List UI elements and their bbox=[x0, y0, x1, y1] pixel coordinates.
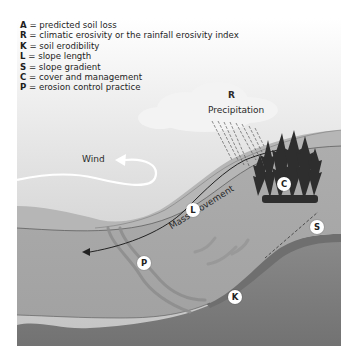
legend-row-a: A = predicted soil loss bbox=[20, 20, 239, 30]
legend-row-l: L = slope length bbox=[20, 51, 239, 61]
badge-c: C bbox=[277, 177, 291, 191]
precipitation-label: Precipitation bbox=[208, 105, 264, 115]
badge-l: L bbox=[186, 203, 200, 217]
legend-row-s: S = slope gradient bbox=[20, 62, 239, 72]
legend: A = predicted soil loss R = climatic ero… bbox=[20, 20, 239, 93]
r-label: R bbox=[228, 90, 235, 100]
legend-row-r: R = climatic erosivity or the rainfall e… bbox=[20, 30, 239, 40]
badge-p: P bbox=[137, 256, 151, 270]
badge-s: S bbox=[310, 220, 324, 234]
legend-row-c: C = cover and management bbox=[20, 72, 239, 82]
wind-label: Wind bbox=[82, 154, 105, 164]
legend-row-k: K = soil erodibility bbox=[20, 41, 239, 51]
badge-k: K bbox=[228, 290, 242, 304]
legend-row-p: P = erosion control practice bbox=[20, 82, 239, 92]
